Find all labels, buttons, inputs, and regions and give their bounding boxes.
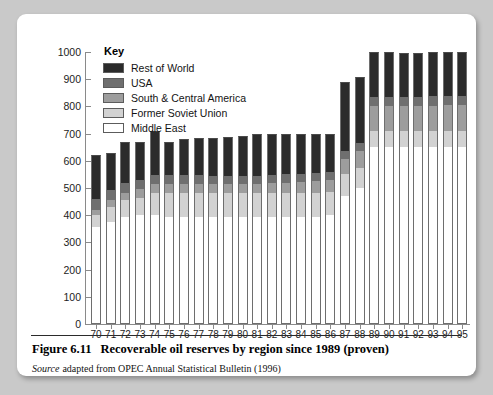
legend-title: Key xyxy=(104,46,246,57)
bar-segment xyxy=(135,215,145,324)
legend-entry-label: Rest of World xyxy=(131,63,194,74)
source-label: Source xyxy=(32,363,59,374)
y-axis-tick-label: 200 xyxy=(43,265,81,277)
bar-segment xyxy=(150,215,160,324)
bar-segment xyxy=(443,96,453,106)
bar-segment xyxy=(340,159,350,174)
bar-segment xyxy=(413,131,423,147)
bar-segment xyxy=(238,217,248,324)
bar-segment xyxy=(179,184,189,194)
y-axis-tick-label: 1000 xyxy=(43,47,81,59)
bar-segment xyxy=(340,174,350,196)
y-axis-tick-value: 100 xyxy=(47,292,81,303)
y-axis-tick xyxy=(85,134,91,135)
bar-segment xyxy=(179,175,189,184)
bar-segment xyxy=(252,184,262,194)
bar-segment xyxy=(369,147,379,324)
bar-segment xyxy=(296,174,306,182)
bar-segment xyxy=(135,198,145,216)
bar-segment xyxy=(428,131,438,147)
bar-segment xyxy=(281,217,291,324)
bar-segment xyxy=(428,96,438,106)
bar-segment xyxy=(91,215,101,227)
bar-segment xyxy=(311,193,321,216)
bar-segment xyxy=(281,174,291,182)
bar-segment xyxy=(91,227,101,324)
bar xyxy=(135,142,145,324)
bar-segment xyxy=(179,217,189,324)
y-axis-tick-value: 800 xyxy=(47,101,81,112)
bar-segment xyxy=(413,147,423,324)
bar xyxy=(457,52,467,324)
bar-segment xyxy=(238,136,248,175)
bar-segment xyxy=(208,138,218,175)
bar-segment xyxy=(208,193,218,216)
bar-segment xyxy=(91,155,101,199)
x-axis-line xyxy=(85,324,470,325)
legend-entry: Rest of World xyxy=(103,61,246,75)
bar xyxy=(443,52,453,324)
y-axis-tick-value: 200 xyxy=(47,265,81,276)
bar xyxy=(106,153,116,324)
bar-segment xyxy=(179,193,189,216)
bar-segment xyxy=(164,175,174,184)
bar-segment xyxy=(325,180,335,192)
bar xyxy=(369,52,379,324)
bar-segment xyxy=(106,200,116,207)
bar-segment xyxy=(296,217,306,324)
bar-segment xyxy=(106,222,116,324)
y-axis-tick-value: 500 xyxy=(47,183,81,194)
y-axis-tick xyxy=(85,324,91,325)
bar-segment xyxy=(106,190,116,200)
y-axis-tick xyxy=(85,79,91,80)
bar-segment xyxy=(325,134,335,172)
bar-segment xyxy=(150,131,160,175)
bar-segment xyxy=(457,52,467,96)
bar-segment xyxy=(399,131,409,147)
bar-segment xyxy=(296,182,306,193)
y-axis-tick xyxy=(85,52,91,53)
y-axis-tick-value: 400 xyxy=(47,210,81,221)
bar-segment xyxy=(428,147,438,324)
bar-segment xyxy=(106,207,116,222)
bar-segment xyxy=(443,52,453,96)
bar-segment xyxy=(208,176,218,184)
legend-entry-label: South & Central America xyxy=(131,93,246,104)
bar-segment xyxy=(120,142,130,183)
source-text: adapted from OPEC Annual Statistical Bul… xyxy=(62,363,280,374)
bar-segment xyxy=(369,97,379,107)
bar-segment xyxy=(208,184,218,194)
bar xyxy=(179,139,189,324)
bar-segment xyxy=(428,52,438,96)
bar-segment xyxy=(340,82,350,151)
bar-segment xyxy=(120,217,130,324)
chart-legend: Key Rest of WorldUSASouth & Central Amer… xyxy=(103,46,246,136)
bar-segment xyxy=(355,168,365,188)
bar-segment xyxy=(223,193,233,216)
bar-segment xyxy=(457,96,467,106)
bar-segment xyxy=(223,184,233,194)
bar-segment xyxy=(325,192,335,215)
legend-entry-label: USA xyxy=(131,78,153,89)
bar-segment xyxy=(443,147,453,324)
figure-caption: Figure 6.11Recoverable oil reserves by r… xyxy=(32,342,389,357)
legend-swatch-icon xyxy=(103,78,124,88)
bar xyxy=(194,138,204,324)
bar-segment xyxy=(281,183,291,194)
bar-segment xyxy=(194,138,204,176)
bar xyxy=(91,155,101,324)
bar-segment xyxy=(296,193,306,216)
bar-segment xyxy=(252,217,262,324)
chart-plot-area: 10009008007006005004003002001000 7071727… xyxy=(17,14,476,332)
bar-segment xyxy=(208,217,218,324)
bar xyxy=(164,142,174,324)
caption-divider xyxy=(31,335,462,336)
bar xyxy=(384,52,394,324)
bar-segment xyxy=(311,217,321,324)
bar-segment xyxy=(399,147,409,324)
bar-segment xyxy=(238,184,248,194)
bar xyxy=(311,134,321,324)
bar-segment xyxy=(369,131,379,147)
legend-entry: Former Soviet Union xyxy=(103,106,246,120)
bar-segment xyxy=(120,183,130,193)
